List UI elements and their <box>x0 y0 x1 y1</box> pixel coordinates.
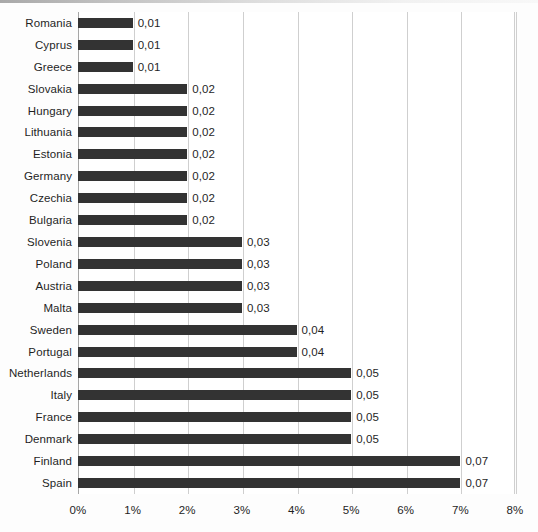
category-label-row: Netherlands <box>0 363 72 385</box>
bar-row: 0,03 <box>78 253 515 275</box>
category-label: Italy <box>50 389 72 401</box>
bar-value-label: 0,05 <box>356 367 379 379</box>
bar <box>78 149 187 159</box>
x-axis-tick-label: 8% <box>507 504 524 516</box>
value-axis: 0%1%2%3%4%5%6%7%8% <box>0 496 538 526</box>
bar <box>78 412 351 422</box>
category-label: Germany <box>24 170 72 182</box>
category-label-row: Hungary <box>0 100 72 122</box>
bar-row: 0,01 <box>78 34 515 56</box>
category-label-row: Slovenia <box>0 231 72 253</box>
bar-row: 0,03 <box>78 297 515 319</box>
category-label-row: Estonia <box>0 143 72 165</box>
category-label-row: Slovakia <box>0 78 72 100</box>
category-label-row: Cyprus <box>0 34 72 56</box>
x-axis-tick-label: 2% <box>179 504 196 516</box>
bar-row: 0,04 <box>78 319 515 341</box>
category-label: Slovenia <box>27 236 72 248</box>
category-label: Romania <box>25 17 72 29</box>
bar <box>78 368 351 378</box>
bar-row: 0,01 <box>78 12 515 34</box>
category-label-row: Malta <box>0 297 72 319</box>
category-label-row: Spain <box>0 472 72 494</box>
bar <box>78 237 242 247</box>
bar-value-label: 0,02 <box>192 214 215 226</box>
bar-row: 0,05 <box>78 428 515 450</box>
bar <box>78 40 133 50</box>
bar <box>78 84 187 94</box>
category-label: Slovakia <box>28 83 72 95</box>
category-label: Hungary <box>28 105 72 117</box>
bar <box>78 281 242 291</box>
x-axis-tick-label: 0% <box>70 504 87 516</box>
bar-value-label: 0,02 <box>192 126 215 138</box>
category-label-row: Denmark <box>0 428 72 450</box>
category-label-row: Sweden <box>0 319 72 341</box>
bar-row: 0,05 <box>78 363 515 385</box>
category-label-row: Czechia <box>0 187 72 209</box>
category-label: Sweden <box>30 324 72 336</box>
bar <box>78 456 460 466</box>
x-axis-tick-label: 5% <box>343 504 360 516</box>
x-axis-tick-label: 4% <box>288 504 305 516</box>
page-top-edge <box>0 0 538 3</box>
category-label: Poland <box>36 258 72 270</box>
bar <box>78 259 242 269</box>
bar <box>78 325 297 335</box>
category-label-row: Greece <box>0 56 72 78</box>
category-label: Austria <box>36 280 73 292</box>
category-label: Czechia <box>30 192 72 204</box>
category-label: Spain <box>42 477 72 489</box>
bar <box>78 390 351 400</box>
bar <box>78 215 187 225</box>
bar-row: 0,03 <box>78 231 515 253</box>
category-label: Estonia <box>33 148 72 160</box>
bar-row: 0,02 <box>78 143 515 165</box>
bar-value-label: 0,03 <box>247 258 270 270</box>
category-label-row: Austria <box>0 275 72 297</box>
category-label-row: Finland <box>0 450 72 472</box>
bar-value-label: 0,03 <box>247 236 270 248</box>
bar <box>78 106 187 116</box>
bar-value-label: 0,07 <box>465 477 488 489</box>
bar-row: 0,02 <box>78 100 515 122</box>
bar-value-label: 0,01 <box>138 17 161 29</box>
category-label: Greece <box>34 61 72 73</box>
bar-value-label: 0,04 <box>302 324 325 336</box>
bar <box>78 62 133 72</box>
bar-row: 0,01 <box>78 56 515 78</box>
category-label-row: France <box>0 406 72 428</box>
bar <box>78 478 460 488</box>
bar-value-label: 0,02 <box>192 170 215 182</box>
bar-row: 0,02 <box>78 122 515 144</box>
bar-row: 0,07 <box>78 472 515 494</box>
x-axis-tick-label: 6% <box>397 504 414 516</box>
category-label-row: Poland <box>0 253 72 275</box>
bar-value-label: 0,05 <box>356 411 379 423</box>
bar-value-label: 0,04 <box>302 346 325 358</box>
bar-value-label: 0,01 <box>138 61 161 73</box>
bar-row: 0,02 <box>78 187 515 209</box>
gridline <box>516 12 517 494</box>
category-label: Finland <box>34 455 72 467</box>
category-label: France <box>36 411 72 423</box>
bar-value-label: 0,02 <box>192 105 215 117</box>
bar-chart: RomaniaCyprusGreeceSlovakiaHungaryLithua… <box>0 0 538 532</box>
x-axis-tick-label: 7% <box>452 504 469 516</box>
bar <box>78 18 133 28</box>
bar-row: 0,03 <box>78 275 515 297</box>
bar-value-label: 0,02 <box>192 83 215 95</box>
bar-row: 0,05 <box>78 384 515 406</box>
category-label: Netherlands <box>9 367 72 379</box>
bars-layer: 0,010,010,010,020,020,020,020,020,020,02… <box>78 12 515 494</box>
bar <box>78 303 242 313</box>
bar-value-label: 0,07 <box>465 455 488 467</box>
bar-value-label: 0,01 <box>138 39 161 51</box>
bar-value-label: 0,02 <box>192 192 215 204</box>
category-label: Cyprus <box>35 39 72 51</box>
bar-value-label: 0,05 <box>356 389 379 401</box>
category-label-row: Portugal <box>0 341 72 363</box>
x-axis-tick-label: 3% <box>233 504 250 516</box>
category-label-row: Germany <box>0 165 72 187</box>
category-axis-labels: RomaniaCyprusGreeceSlovakiaHungaryLithua… <box>0 12 72 494</box>
